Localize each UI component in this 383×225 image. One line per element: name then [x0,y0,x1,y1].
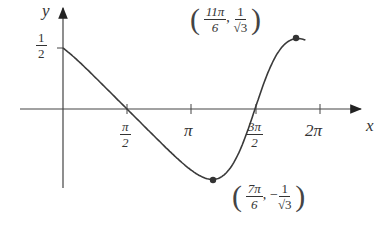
min-point-annotation: ( 7π6, −1√3 ) [232,181,305,211]
x-tick-label-pi: π [184,122,193,139]
y-axis-label: y [42,2,50,19]
paren: ) [295,179,305,212]
frac-den: √3 [234,20,248,34]
y-tick-label-half: 12 [36,31,47,60]
comma: , [263,187,267,202]
comma: , [226,10,230,25]
frac-den: 6 [251,197,258,211]
frac-num: 1 [235,5,246,20]
x-tick-label-three-pi-half: 3π2 [246,120,263,149]
frac-num: 3π [246,120,263,135]
frac-num: π [120,120,131,135]
paren: ) [251,2,261,35]
frac-num: 1 [36,31,47,46]
max-point-marker [293,35,299,41]
frac-den: 2 [251,135,258,149]
frac-num: 7π [246,182,263,197]
paren: ( [190,2,200,35]
frac-den: 6 [212,20,219,34]
frac-num: 11π [204,5,227,20]
max-point-annotation: ( 11π6, 1√3 ) [190,4,261,34]
x-axis-label: x [366,117,374,134]
paren: ( [232,179,242,212]
frac-den: 2 [122,135,129,149]
frac-den: 2 [38,46,45,60]
frac-den: √3 [278,197,292,211]
minus-sign: − [270,187,278,202]
frac-num: 1 [279,182,290,197]
x-tick-label-two-pi: 2π [305,122,322,139]
min-point-marker [210,177,216,183]
x-tick-label-pi-half: π2 [120,120,131,149]
